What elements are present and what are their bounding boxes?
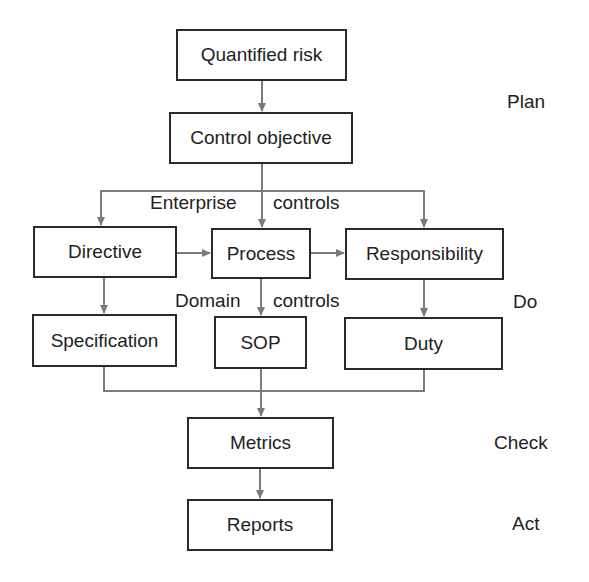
- control-framework-diagram: Quantified risk Control objective Direct…: [0, 0, 589, 582]
- box-reports: Reports: [187, 499, 333, 551]
- box-quantified-risk: Quantified risk: [176, 29, 347, 81]
- box-responsibility: Responsibility: [345, 228, 504, 280]
- phase-plan: Plan: [507, 92, 545, 111]
- label-enterprise-controls: controls: [273, 193, 340, 212]
- box-process: Process: [211, 228, 311, 279]
- box-metrics: Metrics: [187, 417, 334, 469]
- box-specification: Specification: [32, 314, 177, 367]
- box-control-objective: Control objective: [169, 112, 353, 164]
- label-domain: Domain: [175, 291, 240, 310]
- phase-act: Act: [512, 514, 539, 533]
- box-directive: Directive: [33, 226, 177, 278]
- label-enterprise: Enterprise: [150, 193, 237, 212]
- label-domain-controls: controls: [273, 291, 340, 310]
- box-duty: Duty: [344, 317, 503, 370]
- box-sop: SOP: [214, 316, 307, 369]
- phase-do: Do: [513, 292, 537, 311]
- phase-check: Check: [494, 433, 548, 452]
